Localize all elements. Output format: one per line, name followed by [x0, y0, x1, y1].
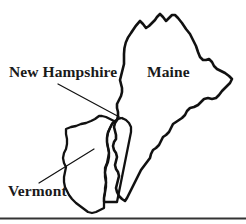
new-england-map-figure: New Hampshire Maine Vermont — [0, 0, 246, 224]
vermont-leader-line — [39, 149, 94, 183]
new-hampshire-leader-line — [58, 84, 123, 119]
label-new-hampshire: New Hampshire — [9, 64, 117, 80]
label-vermont: Vermont — [8, 183, 67, 199]
label-maine: Maine — [147, 64, 190, 80]
vermont-outline — [63, 116, 114, 213]
maine-outline — [113, 14, 232, 201]
